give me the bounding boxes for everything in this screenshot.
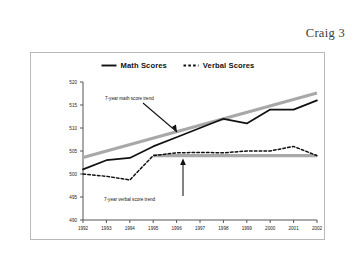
x-tick-label: 1992: [78, 226, 89, 231]
series-line: [83, 100, 317, 169]
y-tick-label: 520: [69, 80, 77, 85]
chart-svg: 490495500505510515520 199219931994199519…: [31, 53, 326, 241]
x-tick-label: 1998: [218, 226, 229, 231]
annotation-label-math: 7-year math score trend: [105, 96, 154, 101]
y-tick-label: 515: [69, 103, 77, 108]
page-canvas: Craig 3 Math Scores Verbal Scores: [0, 0, 361, 258]
x-tick-label: 1994: [125, 226, 136, 231]
x-tick-label: 1997: [195, 226, 206, 231]
y-tick-label: 500: [69, 172, 77, 177]
annotation-arrow-verbal-head: [180, 159, 186, 166]
chart-panel: Math Scores Verbal Scores 49049550050551…: [30, 52, 325, 240]
x-tick-label: 2001: [288, 226, 299, 231]
y-tick-label: 495: [69, 195, 77, 200]
y-tick-label: 490: [69, 218, 77, 223]
x-tick-label: 1996: [171, 226, 182, 231]
x-tick-label: 1993: [101, 226, 112, 231]
y-tick-label: 505: [69, 149, 77, 154]
annotation-arrow-math-shaft: [143, 103, 177, 132]
running-header: Craig 3: [306, 26, 345, 41]
annotation-label-verbal: 7-year verbal score trend: [104, 197, 156, 202]
annotation-math: 7-year math score trend: [105, 96, 179, 132]
x-tick-group: 1992199319941995199619971998199920002001…: [78, 220, 323, 231]
data-series-group: [83, 100, 317, 180]
y-tick-label: 510: [69, 126, 77, 131]
x-tick-label: 2002: [312, 226, 323, 231]
x-tick-label: 1995: [148, 226, 159, 231]
y-tick-group: 490495500505510515520: [69, 80, 83, 223]
trend-line-group: [83, 93, 317, 157]
x-tick-label: 1999: [242, 226, 253, 231]
x-tick-label: 2000: [265, 226, 276, 231]
trend-line: [83, 93, 317, 157]
plot-area: 490495500505510515520 199219931994199519…: [31, 53, 326, 241]
series-line: [83, 146, 317, 180]
